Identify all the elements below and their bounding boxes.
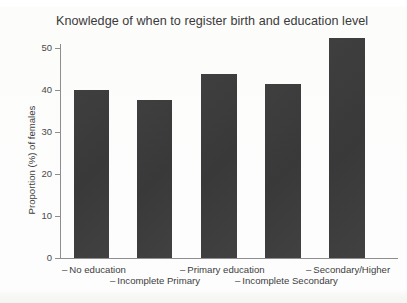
- x-tick-dash-3: –: [180, 264, 185, 275]
- x-axis-label-incomplete-primary: –Incomplete Primary: [110, 275, 200, 286]
- x-tick-dash-4: –: [235, 275, 240, 286]
- x-tick-dash-1: –: [62, 264, 67, 275]
- x-axis-label-no-education: –No education: [62, 264, 126, 275]
- x-axis-label-text-4: Incomplete Secondary: [242, 275, 337, 286]
- y-tick-mark-0: [55, 258, 61, 259]
- x-axis-label-incomplete-secondary: –Incomplete Secondary: [235, 275, 338, 286]
- y-tick-mark-50: [55, 48, 61, 49]
- y-tick-mark-20: [55, 174, 61, 175]
- y-tick-mark-40: [55, 90, 61, 91]
- y-tick-label-50: 50: [18, 43, 52, 53]
- x-axis-label-text-3: Primary education: [187, 264, 264, 275]
- y-axis-title: Proportion (%) of females: [27, 80, 37, 240]
- bar-no-education: [74, 90, 109, 258]
- y-tick-mark-10: [55, 216, 61, 217]
- x-tick-dash-5: –: [306, 264, 311, 275]
- y-axis-line: [60, 44, 61, 259]
- bar-incomplete-secondary: [265, 84, 301, 258]
- y-tick-mark-30: [55, 132, 61, 133]
- x-axis-line: [60, 258, 398, 259]
- bar-primary-education: [201, 74, 237, 258]
- x-tick-dash-2: –: [110, 275, 115, 286]
- chart-page: Knowledge of when to register birth and …: [0, 0, 407, 303]
- x-axis-label-primary-education: –Primary education: [180, 264, 265, 275]
- x-axis-label-secondary-higher: –Secondary/Higher: [306, 264, 390, 275]
- x-axis-label-text-5: Secondary/Higher: [313, 264, 390, 275]
- x-axis-label-text-1: No education: [69, 264, 126, 275]
- x-axis-label-text-2: Incomplete Primary: [117, 275, 200, 286]
- bar-secondary-higher: [329, 38, 365, 258]
- y-tick-label-0: 0: [18, 253, 52, 263]
- bar-incomplete-primary: [137, 100, 172, 258]
- plot-area: 50 40 30 20 10 0 Proportion (%) of femal…: [0, 0, 407, 303]
